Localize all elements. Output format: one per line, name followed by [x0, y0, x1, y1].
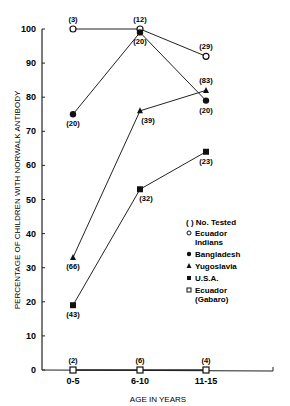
legend-label: Ecuador	[195, 286, 227, 295]
n-tested-label: (3)	[68, 15, 78, 24]
n-tested-label: (4)	[201, 356, 211, 365]
legend-label: U.S.A.	[195, 274, 219, 283]
x-tick-label: 0-5	[66, 376, 79, 386]
legend-marker	[187, 276, 191, 280]
x-axis-title: AGE IN YEARS	[130, 395, 186, 404]
data-point-1	[203, 97, 209, 103]
legend-marker	[187, 288, 191, 292]
legend-label: Ecuador	[195, 229, 227, 238]
n-tested-label: (32)	[139, 194, 153, 203]
data-point-1	[137, 29, 143, 35]
line-chart: 01020304050607080901000-56-1011-15AGE IN…	[0, 0, 290, 406]
n-tested-label: (20)	[133, 37, 147, 46]
data-point-4	[203, 367, 209, 373]
data-point-2	[70, 254, 76, 260]
data-point-3	[70, 302, 76, 308]
n-tested-label: (20)	[199, 106, 213, 115]
y-tick-label: 90	[26, 58, 36, 68]
legend-label: Bangladesh	[195, 250, 240, 259]
y-tick-label: 70	[26, 126, 36, 136]
y-tick-label: 30	[26, 263, 36, 273]
y-axis-title: PERCENTAGE OF CHILDREN WITH NORWALK ANTI…	[13, 90, 22, 309]
y-tick-label: 0	[31, 365, 36, 375]
y-tick-label: 20	[26, 297, 36, 307]
y-tick-label: 60	[26, 160, 36, 170]
n-tested-label: (39)	[141, 116, 155, 125]
data-point-2	[203, 87, 209, 93]
n-tested-label: (43)	[66, 310, 80, 319]
legend-marker	[187, 252, 191, 256]
y-tick-label: 10	[26, 331, 36, 341]
data-point-0	[203, 53, 209, 59]
n-tested-label: (66)	[66, 262, 80, 271]
n-tested-label: (2)	[68, 356, 78, 365]
n-tested-label: (23)	[199, 157, 213, 166]
x-tick-label: 11-15	[195, 376, 218, 386]
data-point-3	[203, 149, 209, 155]
n-tested-label: (83)	[199, 76, 213, 85]
data-point-1	[70, 111, 76, 117]
data-point-0	[70, 26, 76, 32]
legend-marker	[187, 263, 192, 268]
y-tick-label: 100	[21, 24, 36, 34]
legend-label: (Gabaro)	[195, 295, 229, 304]
n-tested-label: (20)	[66, 119, 80, 128]
x-tick-label: 6-10	[131, 376, 149, 386]
y-tick-label: 80	[26, 92, 36, 102]
y-tick-label: 50	[26, 195, 36, 205]
y-tick-label: 40	[26, 229, 36, 239]
data-point-3	[137, 186, 143, 192]
series-line-3	[73, 152, 206, 305]
data-point-4	[70, 367, 76, 373]
n-tested-label: (12)	[133, 15, 147, 24]
n-tested-label: (29)	[199, 42, 213, 51]
series-line-2	[73, 90, 206, 257]
legend-marker	[187, 231, 191, 235]
n-tested-label: (6)	[135, 356, 145, 365]
legend-label: Yugoslavia	[195, 262, 237, 271]
legend-note: ( ) No. Tested	[186, 218, 236, 227]
data-point-4	[137, 367, 143, 373]
legend-label: Indians	[195, 238, 224, 247]
